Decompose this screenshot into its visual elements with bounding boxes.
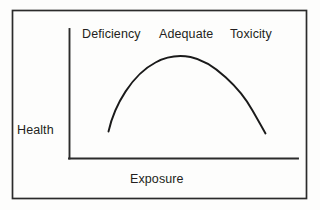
y-axis-label: Health <box>17 124 54 137</box>
zone-label-deficiency: Deficiency <box>82 28 141 41</box>
zone-label-toxicity: Toxicity <box>230 28 272 41</box>
zone-label-adequate: Adequate <box>159 28 213 41</box>
x-axis-label: Exposure <box>130 173 184 186</box>
dose-response-figure: Deficiency Adequate Toxicity Health Expo… <box>0 0 320 210</box>
